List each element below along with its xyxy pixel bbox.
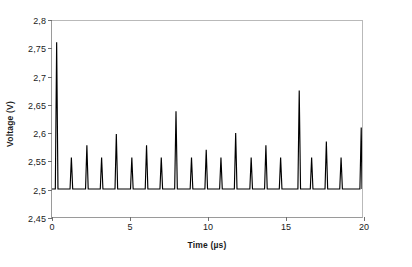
y-tick-mark <box>48 105 52 106</box>
y-tick-mark <box>48 20 52 21</box>
voltage-waveform-line <box>52 42 362 189</box>
x-axis-title: Time (µs) <box>51 240 363 250</box>
y-tick-label: 2,55 <box>28 157 46 167</box>
voltage-series <box>52 21 362 217</box>
y-tick-label: 2,65 <box>28 101 46 111</box>
x-tick-mark <box>364 217 365 221</box>
y-axis-title: Voltage (V) <box>5 89 15 159</box>
y-tick-label: 2,75 <box>28 44 46 54</box>
y-tick-label: 2,8 <box>33 16 46 26</box>
plot-area: 2,452,52,552,62,652,72,752,805101520 <box>51 20 363 218</box>
x-tick-label: 5 <box>127 222 132 232</box>
y-tick-mark <box>48 48 52 49</box>
y-tick-label: 2,45 <box>28 214 46 224</box>
y-tick-mark <box>48 77 52 78</box>
chart-figure: Voltage (V) 2,452,52,552,62,652,72,752,8… <box>0 0 412 267</box>
y-tick-mark <box>48 133 52 134</box>
x-tick-label: 10 <box>203 222 213 232</box>
y-tick-mark <box>48 190 52 191</box>
x-tick-mark <box>208 217 209 221</box>
x-tick-mark <box>130 217 131 221</box>
y-tick-label: 2,6 <box>33 129 46 139</box>
y-tick-label: 2,5 <box>33 186 46 196</box>
x-tick-label: 20 <box>359 222 369 232</box>
y-tick-mark <box>48 161 52 162</box>
x-tick-mark <box>286 217 287 221</box>
x-tick-label: 0 <box>49 222 54 232</box>
x-tick-label: 15 <box>281 222 291 232</box>
y-tick-label: 2,7 <box>33 73 46 83</box>
x-tick-mark <box>52 217 53 221</box>
